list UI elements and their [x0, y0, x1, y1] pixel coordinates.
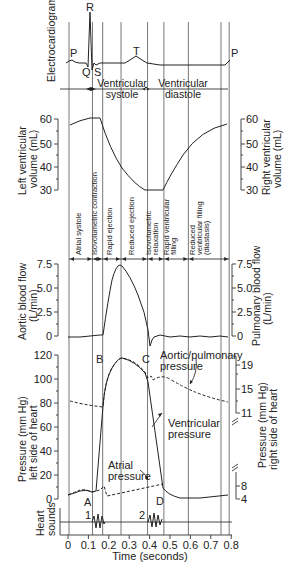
phase-rapid-ejection: Rapid ejection [105, 207, 114, 255]
ecg-q-wave: Q [82, 66, 91, 78]
vol-tick-50: 50 [40, 138, 52, 150]
time-axis: 00.10.20.30.40.50.60.70.8 Time (seconds) [60, 535, 239, 562]
flow-tick-2.5: 2.5 [37, 306, 52, 318]
heart-sounds-panel: Heart sounds 1 2 [34, 502, 232, 536]
p-tick-20: 20 [40, 469, 52, 481]
ventricular-systole-label-2: systole [106, 88, 139, 100]
flow-tick-0: 0 [46, 330, 52, 342]
volume-panel: Left ventricular volume (mL) 60 50 40 30… [16, 113, 283, 196]
phase-isovolumetric-contraction: Isovolumetric contraction [90, 172, 99, 255]
flow-tick-5.0: 5.0 [37, 282, 52, 294]
atrial-pressure-label-2: pressure [108, 470, 151, 482]
pr-tick-15: 15 [241, 383, 253, 395]
pr-tick-8: 8 [241, 480, 247, 492]
annotation-d: D [156, 495, 164, 507]
sound-1-label: 1 [85, 509, 91, 521]
pr-tick-11: 11 [241, 407, 252, 419]
lv-volume-ylabel-2: volume (mL) [27, 130, 39, 188]
sound-2-label: 2 [139, 509, 145, 521]
x-tick-label: 0.8 [224, 539, 239, 551]
pr-tick-4: 4 [241, 493, 247, 505]
rv-vol-tick-50: 50 [246, 138, 258, 150]
rv-vol-tick-60: 60 [246, 113, 258, 125]
annotation-b: B [96, 353, 103, 365]
phase-reduced-ejection: Reduced ejection [127, 197, 136, 255]
ecg-ylabel: Electrocardiogram [45, 0, 57, 82]
atrial-pressure-curve [68, 484, 163, 496]
pressure-right-ylabel-2: right side of heart [267, 389, 279, 470]
phase-isovolumetric-relaxation-2: relaxation [151, 222, 160, 255]
pressure-left-ylabel-2: left side of heart [27, 405, 39, 480]
phase-lines [69, 22, 229, 535]
vol-tick-40: 40 [40, 161, 52, 173]
ecg-r-wave: R [86, 1, 94, 13]
ecg-p-wave: P [70, 47, 77, 59]
flow-tick-7.5: 7.5 [37, 258, 52, 270]
aortic-pressure-curve [70, 358, 228, 407]
heart-sounds-ylabel-2: sounds [45, 502, 57, 536]
rv-vol-tick-30: 30 [246, 184, 258, 196]
vol-tick-30: 30 [40, 184, 52, 196]
annotation-a: A [84, 496, 92, 508]
rv-volume-ylabel-2: volume (mL) [271, 130, 283, 188]
p-tick-80: 80 [40, 397, 52, 409]
p-tick-100: 100 [34, 373, 52, 385]
ecg-trace [66, 12, 230, 70]
x-tick-label: 0.1 [81, 539, 96, 551]
ecg-t-wave: T [133, 45, 140, 57]
pflow-tick-0: 0 [237, 330, 243, 342]
p-tick-120: 120 [34, 349, 52, 361]
x-tick-label: 0 [65, 539, 71, 551]
flow-panel: Aortic blood flow (L/min) 7.5 5.0 2.5 0 … [16, 245, 273, 346]
time-axis-label: Time (seconds) [112, 550, 187, 562]
ecg-panel: Electrocardiogram P R Q S T P Ventricula… [45, 0, 238, 100]
pulmonary-flow-ylabel-2: (L/min) [261, 292, 273, 325]
phase-reduced-filling-3: (diastasis) [202, 220, 211, 255]
ecg-p-wave-2: P [231, 47, 238, 59]
phase-arrows [69, 257, 229, 261]
annotation-c: C [142, 353, 150, 365]
rv-vol-tick-40: 40 [246, 161, 258, 173]
wiggers-diagram: Electrocardiogram P R Q S T P Ventricula… [0, 0, 294, 571]
phase-atrial-systole: Atrial systole [74, 212, 83, 255]
flow-curve [68, 265, 228, 346]
second-heart-sound [148, 513, 162, 527]
ventricular-pressure-label-2: pressure [168, 428, 211, 440]
ventricular-diastole-label-2: diastole [165, 88, 201, 100]
phase-rapid-filling-2: filling [169, 238, 178, 255]
aortic-pressure-label-2: pressure [160, 360, 203, 372]
pr-tick-19: 19 [241, 359, 253, 371]
vol-tick-60: 60 [40, 113, 52, 125]
p-tick-40: 40 [40, 445, 52, 457]
x-tick-label: 0.7 [203, 539, 218, 551]
phase-labels: Atrial systole Isovolumetric contraction… [74, 172, 211, 255]
p-tick-60: 60 [40, 421, 52, 433]
